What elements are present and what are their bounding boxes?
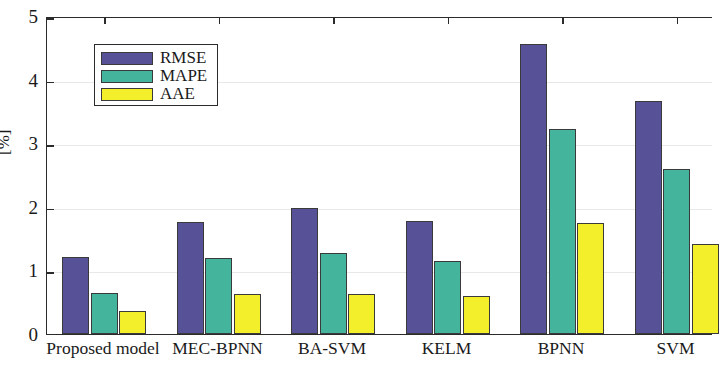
y-tick-mark [47, 272, 54, 274]
bar [663, 169, 690, 334]
bar [549, 129, 576, 334]
y-tick-label: 1 [8, 260, 38, 282]
bar [320, 253, 347, 334]
y-tick-label: 4 [8, 70, 38, 92]
bar [91, 293, 118, 334]
legend-item-mape: MAPE [101, 68, 211, 84]
bar [577, 223, 604, 334]
bar [434, 261, 461, 334]
x-tick-label: MEC-BPNN [172, 338, 262, 359]
legend-label-mape: MAPE [160, 68, 207, 84]
y-tick-mark [47, 82, 54, 84]
bar [62, 257, 89, 334]
legend-label-rmse: RMSE [160, 50, 206, 66]
y-tick-mark [47, 18, 54, 20]
x-tick-label: BPNN [538, 338, 585, 359]
y-tick-label: 3 [8, 133, 38, 155]
bar [463, 296, 490, 334]
x-tick-label: SVM [657, 338, 695, 359]
legend-swatch-mape [101, 70, 153, 83]
legend-item-aae: AAE [101, 86, 211, 102]
bar [692, 244, 719, 334]
bar [177, 222, 204, 334]
y-tick-mark [47, 209, 54, 211]
x-tick-mark-top [677, 18, 679, 24]
legend-swatch-rmse [101, 52, 153, 65]
legend: RMSE MAPE AAE [94, 44, 218, 106]
bar [520, 44, 547, 334]
gridline [47, 209, 712, 210]
x-tick-mark-top [562, 18, 564, 24]
bar [348, 294, 375, 334]
x-tick-mark-top [219, 18, 221, 24]
x-tick-mark-top [448, 18, 450, 24]
y-tick-label: 0 [8, 324, 38, 346]
bar [635, 101, 662, 334]
x-tick-mark-top [104, 18, 106, 24]
x-tick-label: BA-SVM [298, 338, 366, 359]
y-tick-label: 2 [8, 197, 38, 219]
legend-label-aae: AAE [160, 86, 195, 102]
y-tick-label: 5 [8, 6, 38, 28]
legend-swatch-aae [101, 88, 153, 101]
bar [291, 208, 318, 334]
gridline [47, 272, 712, 273]
bar [406, 221, 433, 334]
bar [205, 258, 232, 334]
y-tick-mark [47, 145, 54, 147]
legend-item-rmse: RMSE [101, 50, 211, 66]
gridline [47, 145, 712, 146]
bar [119, 311, 146, 334]
x-tick-label: KELM [422, 338, 472, 359]
x-tick-label: Proposed model [46, 338, 159, 359]
x-tick-mark-top [333, 18, 335, 24]
bar [234, 294, 261, 334]
